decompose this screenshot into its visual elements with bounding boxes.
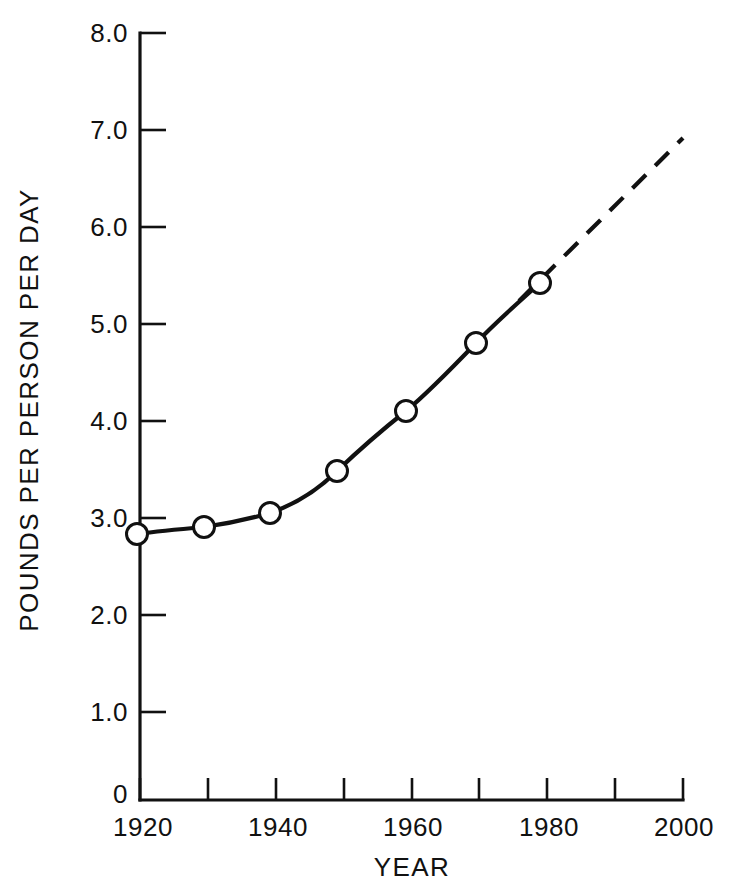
x-tick-label-1940: 1940 bbox=[248, 812, 308, 842]
data-point-1980 bbox=[530, 273, 551, 294]
data-point-1920 bbox=[127, 524, 148, 545]
chart-figure: 8.0 7.0 6.0 5.0 4.0 3.0 2.0 1.0 0 1920 1… bbox=[0, 0, 729, 884]
x-tick-label-1920: 1920 bbox=[113, 812, 173, 842]
x-axis-ticks bbox=[140, 778, 683, 800]
y-tick-label-3: 3.0 bbox=[90, 503, 128, 533]
line-chart-canvas: 8.0 7.0 6.0 5.0 4.0 3.0 2.0 1.0 0 1920 1… bbox=[0, 0, 729, 884]
x-tick-label-2000: 2000 bbox=[654, 812, 714, 842]
x-axis-tick-labels: 1920 1940 1960 1980 2000 bbox=[113, 812, 714, 842]
y-tick-label-7: 7.0 bbox=[90, 115, 128, 145]
x-axis-title: YEAR bbox=[374, 852, 450, 882]
y-tick-label-4: 4.0 bbox=[90, 406, 128, 436]
y-axis-tick-labels: 8.0 7.0 6.0 5.0 4.0 3.0 2.0 1.0 0 bbox=[90, 18, 128, 809]
y-axis-title: POUNDS PER PERSON PER DAY bbox=[14, 188, 44, 631]
data-point-1930 bbox=[194, 517, 215, 538]
y-tick-label-1: 1.0 bbox=[90, 697, 128, 727]
x-tick-label-1980: 1980 bbox=[519, 812, 579, 842]
data-point-1950 bbox=[327, 461, 348, 482]
y-tick-label-6: 6.0 bbox=[90, 212, 128, 242]
y-tick-label-8: 8.0 bbox=[90, 18, 128, 48]
data-point-1940 bbox=[260, 503, 281, 524]
y-tick-label-5: 5.0 bbox=[90, 309, 128, 339]
y-tick-label-2: 2.0 bbox=[90, 600, 128, 630]
data-point-1960 bbox=[396, 401, 417, 422]
y-axis-ticks bbox=[140, 33, 166, 712]
data-point-1970 bbox=[466, 333, 487, 354]
x-tick-label-1960: 1960 bbox=[383, 812, 443, 842]
y-tick-label-0: 0 bbox=[113, 779, 128, 809]
observed-data-line bbox=[137, 283, 540, 534]
data-point-markers bbox=[127, 273, 551, 545]
